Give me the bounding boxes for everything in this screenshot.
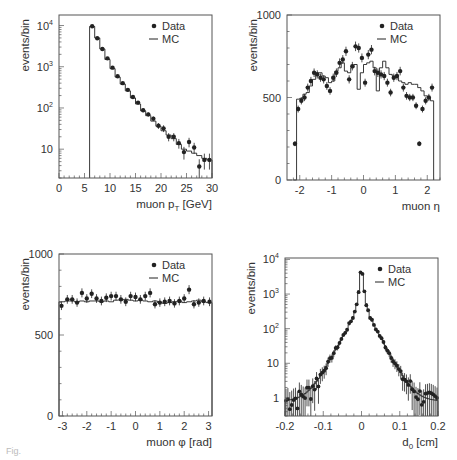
data-point: [65, 297, 69, 301]
legend-data-marker: [152, 263, 157, 268]
data-point: [334, 71, 338, 75]
data-point: [399, 369, 403, 373]
panel-muon-pt: 05101520253010102103104events/binmuon pT…: [19, 15, 218, 213]
data-point: [110, 65, 114, 69]
y-tick-label: 0: [47, 410, 53, 422]
x-tick-label: -1: [327, 184, 337, 196]
data-point: [187, 140, 191, 144]
data-point: [80, 291, 84, 295]
data-point: [357, 46, 361, 50]
data-point: [370, 318, 374, 322]
data-point: [89, 291, 93, 295]
data-point: [90, 24, 94, 28]
data-point: [366, 52, 370, 56]
y-axis-label: events/bin: [19, 19, 31, 71]
data-point: [136, 100, 140, 104]
data-point: [309, 397, 313, 401]
x-tick-label: 0.1: [392, 420, 407, 432]
data-point: [299, 99, 303, 103]
x-tick-label: 20: [155, 182, 167, 194]
data-point: [182, 150, 186, 154]
data-point: [315, 377, 319, 381]
data-point: [389, 356, 393, 360]
x-tick-label: 0: [56, 182, 62, 194]
data-point: [408, 379, 412, 383]
data-point: [398, 69, 402, 73]
data-point: [341, 57, 345, 61]
data-point: [161, 126, 165, 130]
legend-data-label: Data: [162, 259, 186, 271]
legend-data-marker: [378, 267, 383, 272]
data-point: [59, 304, 63, 308]
data-point: [362, 289, 366, 293]
data-point: [406, 383, 410, 387]
data-point: [315, 72, 319, 76]
figure-canvas: 05101520253010102103104events/binmuon pT…: [0, 0, 457, 460]
data-point: [388, 90, 392, 94]
data-point: [385, 80, 389, 84]
data-point: [361, 272, 365, 276]
data-point: [411, 95, 415, 99]
data-point: [337, 61, 341, 65]
data-point: [401, 85, 405, 89]
data-point: [326, 360, 330, 364]
data-point: [207, 300, 211, 304]
panel-muon-phi: -3-2-1012305001000events/binmuon φ [rad]…: [19, 248, 212, 448]
data-point: [148, 291, 152, 295]
data-point: [350, 64, 354, 68]
y-tick-label: 0: [275, 174, 281, 186]
data-point: [172, 135, 176, 139]
x-tick-label: -0.1: [314, 420, 333, 432]
x-tick-label: 1: [392, 184, 398, 196]
data-point: [325, 84, 329, 88]
data-point: [143, 294, 147, 298]
data-point: [347, 77, 351, 81]
data-point: [376, 330, 380, 334]
data-point: [104, 296, 108, 300]
data-point: [317, 385, 321, 389]
x-axis-label: muon η: [402, 200, 440, 212]
x-tick-label: -1: [106, 420, 116, 432]
x-tick-label: 0: [132, 420, 138, 432]
data-point: [382, 74, 386, 78]
data-point: [313, 388, 317, 392]
plot-frame: [59, 254, 212, 416]
data-point: [369, 47, 373, 51]
data-point: [294, 396, 298, 400]
y-tick-label: 102: [263, 322, 279, 335]
x-tick-label: -3: [58, 420, 68, 432]
data-point: [94, 296, 98, 300]
legend-data-marker: [152, 24, 157, 29]
data-point: [163, 300, 167, 304]
data-point: [418, 389, 422, 393]
data-point: [345, 328, 349, 332]
data-point: [338, 341, 342, 345]
data-point: [133, 295, 137, 299]
data-point: [177, 141, 181, 145]
panel-d0: -0.2-0.100.10.2110102103104events/bind0 …: [245, 252, 446, 451]
data-point: [128, 294, 132, 298]
mc-histogram: [293, 61, 433, 180]
y-tick-label: 104: [263, 252, 279, 265]
mc-histogram: [90, 26, 212, 178]
data-point: [153, 302, 157, 306]
x-tick-label: 25: [180, 182, 192, 194]
y-tick-label: 103: [263, 287, 279, 300]
x-tick-label: 2: [181, 420, 187, 432]
data-point: [344, 49, 348, 53]
y-tick-label: 1000: [29, 248, 53, 260]
data-point: [293, 142, 297, 146]
data-point: [307, 386, 311, 390]
data-point: [167, 299, 171, 303]
data-point: [332, 351, 336, 355]
data-point: [146, 112, 150, 116]
data-point: [296, 107, 300, 111]
legend-data-marker: [380, 24, 385, 29]
data-point: [290, 403, 294, 407]
data-point: [355, 302, 359, 306]
data-point: [366, 308, 370, 312]
data-point: [115, 74, 119, 78]
data-point: [395, 74, 399, 78]
data-point: [192, 145, 196, 149]
data-point: [330, 356, 334, 360]
